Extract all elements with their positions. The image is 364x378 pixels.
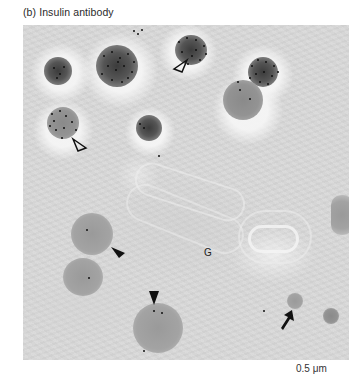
small-granule	[323, 308, 339, 324]
golgi-cisterna	[238, 210, 312, 264]
secretory-granule	[47, 107, 79, 139]
immature-granule	[223, 80, 263, 120]
secretory-granule	[136, 115, 162, 141]
open-arrowhead-icon	[171, 58, 189, 74]
arrow-icon	[280, 309, 296, 331]
electron-micrograph: G	[23, 25, 349, 360]
immature-granule	[63, 258, 103, 296]
small-vesicle	[287, 293, 303, 309]
open-arrowhead-icon	[71, 137, 89, 153]
golgi-label: G	[204, 247, 212, 258]
scale-bar-label: 0.5 μm	[296, 363, 327, 374]
secretory-granule	[96, 45, 138, 87]
edge-granule	[331, 195, 349, 235]
panel-label: (b) Insulin antibody	[23, 6, 114, 18]
filled-arrowhead-icon	[148, 290, 160, 306]
secretory-granule	[44, 57, 72, 85]
immature-granule	[71, 213, 113, 255]
filled-arrowhead-icon	[110, 245, 126, 259]
immature-granule	[133, 303, 183, 353]
